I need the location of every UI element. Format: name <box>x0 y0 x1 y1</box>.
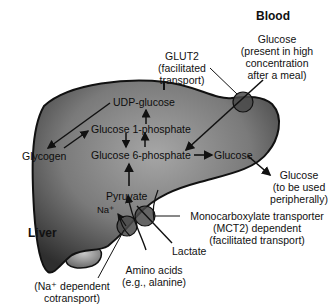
liver-metabolism-diagram: Blood Glucose (present in high concentra… <box>0 0 330 308</box>
lactate-label: Lactate <box>172 245 206 257</box>
udp-glucose-label: UDP-glucose <box>113 96 175 108</box>
blood-glucose-line2: (present in high <box>232 45 322 57</box>
internal-glucose-label: Glucose <box>214 149 253 161</box>
na-cotransport-line2: cotransport) <box>32 292 112 304</box>
liver-region-label: Liver <box>28 227 57 239</box>
mct2-transporter <box>135 206 155 226</box>
peripheral-glucose-line3: peripherally) <box>266 193 330 205</box>
peripheral-glucose-line2: (to be used <box>266 181 330 193</box>
blood-glucose-line3: concentration <box>232 57 322 69</box>
amino-acids-line1: Amino acids <box>118 264 190 276</box>
peripheral-glucose-label: Glucose (to be used peripherally) <box>266 169 330 205</box>
na-cotransport-line1: (Na⁺ dependent <box>32 280 112 292</box>
glut2-label: GLUT2 (facilitated transport) <box>152 50 212 86</box>
na-plus-label: Na⁺ <box>97 204 114 216</box>
mct2-label: Monocarboxylate transporter (MCT2) depen… <box>182 210 330 246</box>
blood-region-label: Blood <box>256 10 290 22</box>
blood-glucose-line1: Glucose <box>232 33 322 45</box>
glut2-line2: (facilitated <box>152 62 212 74</box>
pyruvate-label: Pyruvate <box>106 190 147 202</box>
glut2-transporter <box>233 92 253 112</box>
glut2-line1: GLUT2 <box>152 50 212 62</box>
amino-acids-line2: (e.g., alanine) <box>118 276 190 288</box>
glucose-1-phosphate-label: Glucose 1-phosphate <box>91 123 191 135</box>
glucose-6-phosphate-label: Glucose 6-phosphate <box>91 149 191 161</box>
blood-glucose-line4: after a meal) <box>232 69 322 81</box>
glycogen-label: Glycogen <box>22 150 66 162</box>
mct2-line1: Monocarboxylate transporter <box>182 210 330 222</box>
na-cotransport-label: (Na⁺ dependent cotransport) <box>32 280 112 304</box>
blood-glucose-label: Glucose (present in high concentration a… <box>232 33 322 81</box>
peripheral-glucose-line1: Glucose <box>266 169 330 181</box>
glut2-line3: transport) <box>152 74 212 86</box>
mct2-line2: (MCT2) dependent <box>182 222 330 234</box>
amino-acids-label: Amino acids (e.g., alanine) <box>118 264 190 288</box>
